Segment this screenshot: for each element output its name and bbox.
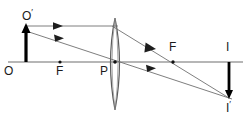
label-image-bottom: I′ [226, 100, 231, 114]
ray-parallel-arrowhead-2 [144, 42, 156, 52]
ray-diagram-figure: O′ O F P F I I′ [0, 0, 249, 120]
lens-centre-dot [113, 60, 117, 64]
ray-parallel-arrowhead-1 [53, 22, 63, 30]
converging-lens [111, 18, 120, 110]
label-focal-left: F [56, 65, 63, 77]
focal-point-right-dot [171, 60, 174, 63]
label-lens-centre: P [100, 65, 108, 77]
ray-centre-arrowhead-2 [146, 65, 156, 72]
object-arrow [22, 23, 31, 62]
label-object-base: O [4, 65, 13, 77]
label-image-top: I [226, 41, 229, 53]
optics-ray-diagram-canvas [0, 0, 249, 120]
label-focal-right: F [169, 41, 176, 53]
ray-centre-arrowhead-1 [54, 34, 64, 41]
ray-parallel [26, 22, 229, 98]
image-arrow [225, 62, 233, 99]
label-object-top: O′ [22, 8, 33, 22]
